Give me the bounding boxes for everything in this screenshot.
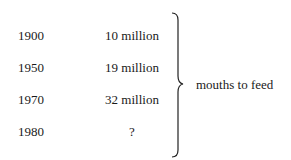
year-cell: 1950 bbox=[18, 60, 58, 76]
value-cell: 10 million bbox=[96, 28, 168, 44]
value-cell: ? bbox=[96, 124, 168, 140]
year-cell: 1900 bbox=[18, 28, 58, 44]
value-cell: 32 million bbox=[96, 92, 168, 108]
brace-label: mouths to feed bbox=[196, 77, 273, 93]
year-cell: 1970 bbox=[18, 92, 58, 108]
right-curly-brace-icon bbox=[168, 12, 188, 158]
year-cell: 1980 bbox=[18, 124, 58, 140]
value-cell: 19 million bbox=[96, 60, 168, 76]
